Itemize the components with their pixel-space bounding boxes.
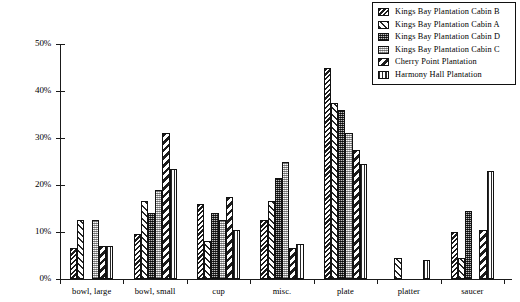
x-axis-tick [123, 279, 124, 284]
legend-item: Kings Bay Plantation Cabin A [378, 19, 511, 31]
bar-group [197, 44, 240, 279]
bar [197, 204, 204, 279]
bar [451, 232, 458, 279]
bar [353, 150, 360, 279]
bar [92, 220, 99, 279]
bar [394, 258, 401, 279]
x-axis-category-label: bowl, small [135, 286, 176, 297]
legend-item-label: Kings Bay Plantation Cabin D [395, 32, 500, 42]
bar-chart: 0%10%20%30%40%50% Kings Bay Plantation C… [0, 0, 520, 302]
legend-item-label: Kings Bay Plantation Cabin C [395, 45, 500, 55]
bar [324, 68, 331, 280]
bar [423, 260, 430, 279]
bar [77, 220, 84, 279]
bar [275, 178, 282, 279]
y-axis-tick: 40% [56, 91, 65, 92]
y-axis-tick-label: 30% [35, 131, 51, 144]
bar [345, 133, 352, 279]
x-axis-tick [187, 279, 188, 284]
legend: Kings Bay Plantation Cabin BKings Bay Pl… [372, 2, 516, 85]
legend-item: Kings Bay Plantation Cabin B [378, 6, 511, 18]
legend-swatch-icon [378, 8, 389, 16]
legend-item: Harmony Hall Plantation [378, 69, 511, 81]
legend-swatch-icon [378, 46, 389, 54]
legend-item-label: Kings Bay Plantation Cabin B [395, 7, 500, 17]
legend-item-label: Harmony Hall Plantation [395, 70, 482, 80]
x-axis-tick [314, 279, 315, 284]
x-axis-category-label: platter [398, 286, 420, 297]
bar [268, 201, 275, 279]
y-axis-tick-label: 50% [35, 37, 51, 50]
bar [233, 230, 240, 279]
bar [289, 248, 296, 279]
y-axis-tick: 30% [56, 138, 65, 139]
y-axis-tick: 50% [56, 44, 65, 45]
legend-item: Cherry Point Plantation [378, 56, 511, 68]
y-axis-tick-label: 40% [35, 84, 51, 97]
bar [99, 246, 106, 279]
bar [148, 213, 155, 279]
x-axis-line [60, 279, 512, 280]
legend-item: Kings Bay Plantation Cabin D [378, 31, 511, 43]
x-axis-category-label: bowl, large [72, 286, 111, 297]
legend-swatch-icon [378, 71, 389, 79]
y-axis-tick-label: 20% [35, 178, 51, 191]
x-axis-tick [250, 279, 251, 284]
bar [479, 230, 486, 279]
bar [219, 220, 226, 279]
bar [170, 169, 177, 279]
x-axis-tick [441, 279, 442, 284]
bar [458, 258, 465, 279]
x-axis-tick [60, 279, 61, 284]
bar [260, 220, 267, 279]
legend-swatch-icon [378, 58, 389, 66]
x-axis-category-label: saucer [461, 286, 483, 297]
bar [226, 197, 233, 279]
bar-group [134, 44, 177, 279]
bar [204, 241, 211, 279]
x-axis-category-label: cup [212, 286, 225, 297]
bar [360, 164, 367, 279]
bar [211, 213, 218, 279]
bar [338, 110, 345, 279]
x-axis-category-label: plate [337, 286, 354, 297]
bar [155, 190, 162, 279]
legend-swatch-icon [378, 21, 389, 29]
bar [296, 244, 303, 279]
bar [487, 171, 494, 279]
bar [141, 201, 148, 279]
y-axis-tick: 10% [56, 232, 65, 233]
bar [331, 103, 338, 279]
x-axis-tick [377, 279, 378, 284]
bar [134, 234, 141, 279]
bar [162, 133, 169, 279]
legend-item-label: Kings Bay Plantation Cabin A [395, 20, 500, 30]
bar [282, 162, 289, 280]
x-axis-category-label: misc. [273, 286, 292, 297]
x-axis-tick [504, 279, 505, 284]
bar-group [324, 44, 367, 279]
y-axis-tick-label: 0% [39, 272, 51, 285]
legend-swatch-icon [378, 33, 389, 41]
bar [106, 246, 113, 279]
legend-item: Kings Bay Plantation Cabin C [378, 44, 511, 56]
y-axis-tick: 20% [56, 185, 65, 186]
bar [465, 211, 472, 279]
bar [70, 248, 77, 279]
bar-group [260, 44, 303, 279]
y-axis-tick-label: 10% [35, 225, 51, 238]
legend-item-label: Cherry Point Plantation [395, 57, 477, 67]
bar-group [70, 44, 113, 279]
